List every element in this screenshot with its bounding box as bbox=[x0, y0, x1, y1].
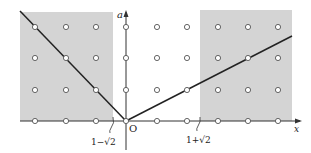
x-axis-arrow-icon bbox=[295, 119, 302, 124]
x-axis-label: x bbox=[294, 124, 299, 134]
lattice-diagram: a x O 1−√2 1+√2 bbox=[0, 0, 311, 153]
a-axis-arrow-icon bbox=[124, 10, 129, 17]
right-boundary-tick bbox=[197, 117, 201, 131]
origin-label: O bbox=[129, 123, 137, 134]
a-axis-label: a bbox=[117, 9, 123, 20]
right-boundary-label: 1+√2 bbox=[186, 135, 211, 145]
left-boundary-label: 1−√2 bbox=[91, 137, 116, 147]
